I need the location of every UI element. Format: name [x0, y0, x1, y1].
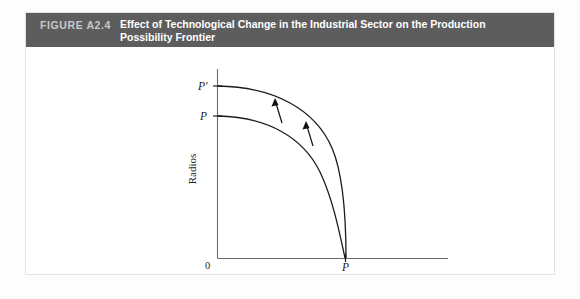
- figure-title-line-2: Possibility Frontier: [120, 31, 486, 44]
- label-p-y-axis: P: [199, 110, 207, 122]
- label-p-prime: P′: [197, 80, 208, 92]
- ppf-curve-new: [218, 86, 346, 258]
- figure-title-line-1: Effect of Technological Change in the In…: [120, 18, 486, 30]
- ppf-chart-svg: P′ P 0 P Rice Radios: [26, 47, 554, 274]
- y-axis-title: Radios: [186, 154, 198, 185]
- label-p-x-axis: P: [341, 261, 349, 273]
- chart-plot-area: P′ P 0 P Rice Radios: [26, 47, 554, 274]
- figure-title: Effect of Technological Change in the In…: [111, 18, 496, 43]
- shift-arrow-2: [303, 121, 314, 146]
- shift-arrow-1: [272, 98, 283, 123]
- figure-header-bar: FIGURE A2.4 Effect of Technological Chan…: [26, 13, 554, 47]
- label-origin: 0: [205, 260, 210, 271]
- figure-box: FIGURE A2.4 Effect of Technological Chan…: [25, 12, 555, 275]
- figure-number-label: FIGURE A2.4: [26, 18, 111, 31]
